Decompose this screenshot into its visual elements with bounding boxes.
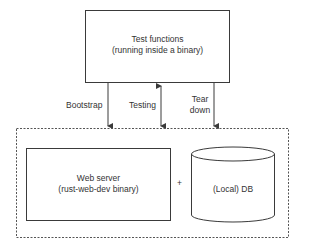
testing-label: Testing (129, 100, 156, 111)
teardown-label: Tear down (188, 94, 212, 116)
test-functions-label: Test functions (running inside a binary) (85, 34, 230, 56)
web-server-title: Web server (26, 173, 171, 184)
web-server-subtitle: (rust-web-dev binary) (26, 184, 171, 195)
plus-sign: + (177, 178, 182, 189)
test-functions-subtitle: (running inside a binary) (85, 45, 230, 56)
teardown-line1: Tear (188, 94, 212, 105)
teardown-line2: down (188, 105, 212, 116)
bootstrap-label: Bootstrap (66, 100, 102, 111)
web-server-label: Web server (rust-web-dev binary) (26, 173, 171, 195)
db-label: (Local) DB (191, 184, 275, 195)
test-functions-title: Test functions (85, 34, 230, 45)
